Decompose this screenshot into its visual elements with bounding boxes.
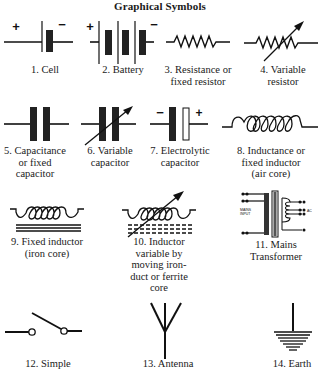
battery-icon: + − bbox=[84, 16, 160, 64]
svg-text:+: + bbox=[195, 106, 202, 120]
capacitor-icon bbox=[3, 106, 69, 142]
label-air-core-inductor: 8. Inductance or fixed inductor (air cor… bbox=[222, 145, 320, 180]
resistor-icon bbox=[164, 30, 232, 50]
svg-text:+: + bbox=[12, 19, 20, 34]
label-earth: 14. Earth bbox=[262, 358, 320, 370]
iron-core-inductor-icon bbox=[8, 203, 86, 237]
air-core-inductor-icon bbox=[220, 110, 320, 138]
label-cell: 1. Cell bbox=[10, 64, 80, 76]
svg-text:INPUT: INPUT bbox=[240, 212, 251, 216]
simple-switch-icon bbox=[4, 310, 82, 340]
svg-text:AC: AC bbox=[307, 209, 312, 213]
electrolytic-capacitor-icon: − + bbox=[148, 105, 210, 143]
label-variable-capacitor: 6. Variable capacitor bbox=[78, 145, 142, 168]
earth-icon bbox=[272, 302, 316, 358]
label-mains-transformer: 11. Mains Transformer bbox=[236, 239, 316, 262]
variable-capacitor-icon bbox=[80, 104, 140, 146]
label-iron-core-inductor: 9. Fixed inductor (iron core) bbox=[2, 236, 92, 259]
variable-inductor-icon bbox=[120, 190, 198, 238]
label-electrolytic-capacitor: 7. Electrolytic capacitor bbox=[148, 145, 212, 168]
cell-icon: + − bbox=[2, 16, 74, 52]
label-resistor: 3. Resistance or fixed resistor bbox=[158, 64, 238, 87]
svg-text:−: − bbox=[156, 105, 164, 120]
label-capacitor: 5. Capacitance or fixed capacitor bbox=[0, 145, 70, 180]
label-variable-resistor: 4. Variable resistor bbox=[248, 64, 318, 87]
mains-transformer-icon: MAINS INPUT AC bbox=[238, 190, 312, 238]
label-variable-inductor: 10. Inductor variable by moving iron- du… bbox=[116, 236, 202, 294]
variable-resistor-icon bbox=[242, 20, 320, 64]
antenna-icon bbox=[148, 302, 184, 360]
label-simple-switch: 12. Simple bbox=[8, 358, 88, 370]
svg-text:−: − bbox=[58, 17, 66, 32]
page-title: Graphical Symbols bbox=[0, 0, 320, 12]
svg-text:−: − bbox=[150, 17, 158, 32]
label-antenna: 13. Antenna bbox=[130, 358, 206, 370]
svg-text:+: + bbox=[86, 19, 94, 34]
label-battery: 2. Battery bbox=[88, 64, 158, 76]
